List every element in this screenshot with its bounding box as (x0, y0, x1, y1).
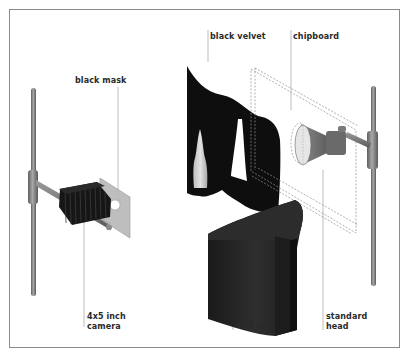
lighting-diagram (0, 0, 408, 357)
label-black-velvet: black velvet (210, 32, 266, 42)
label-camera: 4x5 inch camera (87, 312, 126, 332)
label-black-mask: black mask (75, 76, 127, 86)
soft-box (208, 200, 303, 336)
standard-head (291, 123, 346, 165)
label-soft-box: soft box (236, 321, 274, 331)
label-standard-head: standard head (326, 312, 367, 332)
label-chipboard: chipboard (293, 32, 339, 42)
right-stand (345, 86, 378, 286)
